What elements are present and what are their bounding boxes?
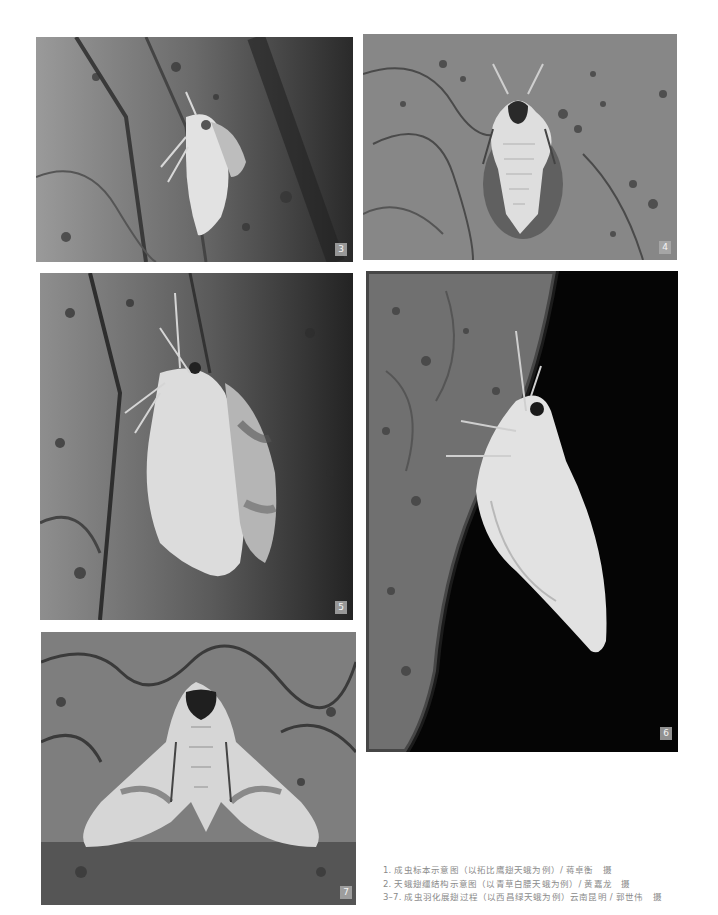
- bark-moth-image: [36, 37, 353, 262]
- photo-7: 7: [41, 632, 356, 905]
- caption-line: 3–7. 成虫羽化展翅过程（以西昌绿天蛾为例）云南昆明 / 郭世伟 摄: [383, 891, 713, 905]
- bark-moth-image: [40, 273, 353, 620]
- bark-moth-image: [41, 632, 356, 905]
- bark-moth-image: [366, 271, 678, 752]
- photo-number-badge: 3: [335, 243, 347, 256]
- photo-number-badge: 7: [340, 886, 352, 899]
- bark-moth-image: [363, 34, 677, 260]
- figure-captions: 1. 成虫标本示意图（以拓比鹰翅天蛾为例）/ 蒋卓衡 摄 2. 天蛾翅缰结构示意…: [383, 864, 713, 905]
- caption-line: 1. 成虫标本示意图（以拓比鹰翅天蛾为例）/ 蒋卓衡 摄: [383, 864, 713, 878]
- caption-line: 2. 天蛾翅缰结构示意图（以青草白腰天蛾为例）/ 黄嘉龙 摄: [383, 878, 713, 892]
- photo-number-badge: 5: [335, 601, 347, 614]
- photo-6: 6: [366, 271, 678, 752]
- photo-number-badge: 4: [659, 241, 671, 254]
- photo-4: 4: [363, 34, 677, 260]
- photo-number-badge: 6: [660, 727, 672, 740]
- photo-3: 3: [36, 37, 353, 262]
- photo-5: 5: [40, 273, 353, 620]
